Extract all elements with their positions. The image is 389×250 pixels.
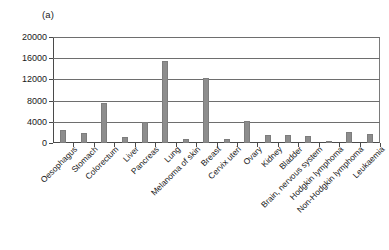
bar[interactable] — [244, 121, 250, 143]
bar[interactable] — [285, 135, 291, 143]
bar[interactable] — [101, 103, 107, 143]
bar-slot — [257, 37, 277, 143]
bar[interactable] — [367, 134, 373, 143]
bar-slot — [176, 37, 196, 143]
bar[interactable] — [346, 132, 352, 143]
y-axis-tick-label: 16000 — [1, 54, 47, 63]
bar-slot — [114, 37, 134, 143]
y-axis-tick-label: 20000 — [1, 33, 47, 42]
bar[interactable] — [142, 122, 148, 143]
bar-slot — [298, 37, 318, 143]
bar-slot — [94, 37, 114, 143]
bar[interactable] — [203, 78, 209, 143]
panel-label: (a) — [42, 9, 54, 20]
y-axis-tick-label: 0 — [1, 139, 47, 148]
bar-slot — [319, 37, 339, 143]
bar-slot — [155, 37, 175, 143]
bar-slot — [237, 37, 257, 143]
x-axis-labels: OesophagusStomachColorectumLiverPancreas… — [53, 143, 380, 248]
bar[interactable] — [162, 61, 168, 143]
bar[interactable] — [81, 133, 87, 143]
bar-slot — [73, 37, 93, 143]
y-axis-tick-label: 8000 — [1, 96, 47, 105]
y-axis-tick-label: 4000 — [1, 117, 47, 126]
figure-panel: (a) OesophagusStomachColorectumLiverPanc… — [0, 0, 389, 250]
y-axis-tick-label: 12000 — [1, 75, 47, 84]
bar[interactable] — [265, 135, 271, 143]
bar-slot — [53, 37, 73, 143]
bar-slot — [135, 37, 155, 143]
bar[interactable] — [60, 130, 66, 143]
bar-slot — [278, 37, 298, 143]
bar-slot — [217, 37, 237, 143]
bar-slot — [339, 37, 359, 143]
bar-slot — [360, 37, 380, 143]
bar-series — [53, 37, 380, 143]
bar-slot — [196, 37, 216, 143]
bar[interactable] — [305, 136, 311, 143]
plot-area — [53, 37, 380, 143]
